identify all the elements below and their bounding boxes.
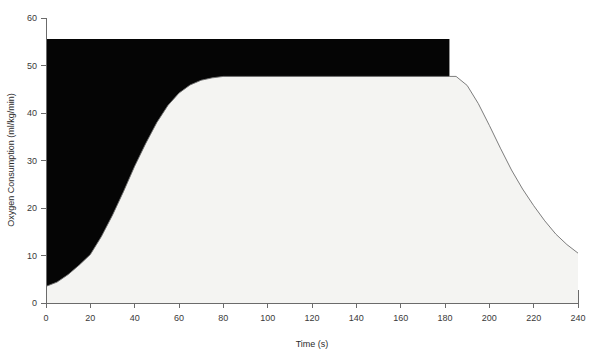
x-tick-label: 60 [174, 313, 184, 323]
y-tick-label: 20 [27, 203, 37, 213]
x-tick-label: 120 [304, 313, 319, 323]
x-tick-label: 80 [218, 313, 228, 323]
x-axis-title: Time (s) [296, 339, 329, 349]
y-tick-label: 50 [27, 61, 37, 71]
x-tick-label: 140 [349, 313, 364, 323]
y-tick-label: 0 [32, 298, 37, 308]
x-tick-label: 180 [437, 313, 452, 323]
y-tick-label: 60 [27, 13, 37, 23]
x-tick-label: 100 [260, 313, 275, 323]
x-axis-tick-labels: 020406080100120140160180200220240 [43, 313, 585, 323]
y-axis-ticks [41, 18, 46, 303]
y-axis-title: Oxygen Consumption (ml/kg/min) [6, 93, 16, 227]
x-tick-label: 240 [570, 313, 585, 323]
y-tick-label: 10 [27, 251, 37, 261]
x-tick-label: 0 [43, 313, 48, 323]
y-tick-label: 30 [27, 156, 37, 166]
y-tick-label: 40 [27, 108, 37, 118]
oxygen-consumption-area-chart: 0102030405060 02040608010012014016018020… [0, 0, 595, 358]
x-tick-label: 160 [393, 313, 408, 323]
x-tick-label: 200 [482, 313, 497, 323]
x-axis-ticks [46, 303, 578, 308]
y-axis-tick-labels: 0102030405060 [27, 13, 37, 308]
x-tick-label: 20 [85, 313, 95, 323]
chart-container: 0102030405060 02040608010012014016018020… [0, 0, 595, 358]
x-tick-label: 220 [526, 313, 541, 323]
x-tick-label: 40 [130, 313, 140, 323]
